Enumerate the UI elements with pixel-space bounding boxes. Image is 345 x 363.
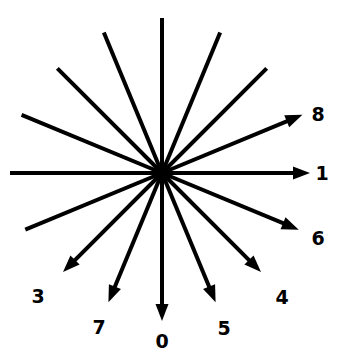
arrowhead-1	[293, 167, 310, 180]
ray-arrow-4	[162, 173, 254, 265]
ray-label-1: 1	[315, 164, 328, 183]
ray-label-3: 3	[31, 287, 44, 306]
ray-label-8: 8	[311, 105, 324, 124]
ray-label-5: 5	[217, 319, 230, 338]
ray-line-plain	[162, 68, 267, 173]
ray-line-plain	[57, 68, 162, 173]
arrowhead-8	[284, 115, 302, 128]
ray-arrow-3	[70, 173, 162, 265]
ray-label-6: 6	[311, 229, 324, 248]
diagram-canvas: 18370546	[0, 0, 345, 363]
ray-label-0: 0	[155, 332, 168, 351]
arrowhead-0	[156, 304, 169, 321]
arrowhead-7	[108, 284, 121, 302]
radial-diagram	[0, 0, 345, 363]
ray-label-7: 7	[92, 318, 105, 337]
arrowhead-5	[203, 284, 216, 302]
center-hub	[153, 164, 171, 182]
arrowhead-6	[281, 217, 299, 230]
ray-label-4: 4	[275, 288, 288, 307]
